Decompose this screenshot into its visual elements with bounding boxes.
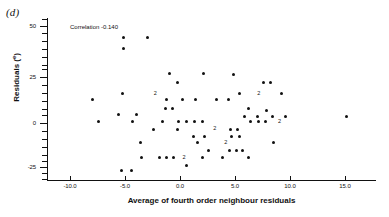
y-axis-label-superscript: e bbox=[11, 56, 17, 59]
figure-panel-d: (d) 50250-25 -10.0-5.00.05.010.015.0 Res… bbox=[0, 0, 389, 217]
scatter-point bbox=[91, 98, 94, 101]
scatter-point bbox=[122, 47, 125, 50]
scatter-point bbox=[215, 98, 218, 101]
x-tick-label: 0.0 bbox=[165, 183, 195, 189]
overlap-count-label: 2 bbox=[257, 90, 260, 96]
scatter-point bbox=[168, 72, 171, 75]
scatter-point bbox=[165, 156, 168, 159]
overlap-count-label: 2 bbox=[213, 125, 216, 131]
scatter-point bbox=[243, 115, 246, 118]
scatter-point bbox=[194, 98, 197, 101]
scatter-point bbox=[139, 141, 142, 144]
scatter-point bbox=[247, 107, 250, 110]
scatter-point bbox=[272, 141, 275, 144]
y-tick-minor bbox=[42, 179, 48, 180]
scatter-point bbox=[241, 149, 244, 152]
panel-label: (d) bbox=[6, 6, 19, 18]
x-axis-label: Average of fourth order neighbour residu… bbox=[47, 196, 376, 205]
scatter-point bbox=[171, 107, 174, 110]
scatter-point bbox=[238, 92, 241, 95]
scatter-point bbox=[284, 115, 287, 118]
scatter-point bbox=[271, 115, 274, 118]
scatter-point bbox=[130, 169, 133, 172]
scatter-point bbox=[235, 149, 238, 152]
scatter-point bbox=[221, 156, 224, 159]
scatter-point bbox=[121, 92, 124, 95]
scatter-point bbox=[97, 120, 100, 123]
overlap-count-label: 2 bbox=[182, 154, 185, 160]
scatter-point bbox=[161, 120, 164, 123]
scatter-point bbox=[262, 81, 265, 84]
scatter-point bbox=[280, 92, 283, 95]
scatter-point bbox=[164, 107, 167, 110]
y-axis-label: Residuals (e) bbox=[11, 37, 22, 117]
scatter-point bbox=[122, 36, 125, 39]
scatter-point bbox=[236, 128, 239, 131]
scatter-point bbox=[247, 156, 250, 159]
scatter-point bbox=[158, 156, 161, 159]
scatter-point bbox=[165, 98, 168, 101]
x-tick-label: 15.0 bbox=[330, 183, 360, 189]
scatter-point bbox=[185, 164, 188, 167]
x-tick-label: -5.0 bbox=[110, 183, 140, 189]
scatter-point bbox=[135, 113, 138, 116]
scatter-point bbox=[146, 36, 149, 39]
scatter-point bbox=[257, 120, 260, 123]
scatter-point bbox=[176, 128, 179, 131]
scatter-point bbox=[269, 81, 272, 84]
scatter-point bbox=[192, 135, 195, 138]
scatter-point bbox=[238, 135, 241, 138]
scatter-point bbox=[265, 109, 268, 112]
scatter-point bbox=[181, 98, 184, 101]
scatter-point bbox=[229, 128, 232, 131]
x-tick-label: -10.0 bbox=[55, 183, 85, 189]
scatter-point bbox=[264, 120, 267, 123]
overlap-count-label: 2 bbox=[224, 139, 227, 145]
scatter-point bbox=[256, 115, 259, 118]
scatter-point bbox=[203, 135, 206, 138]
scatter-point bbox=[249, 120, 252, 123]
y-axis-label-text: Residuals ( bbox=[12, 59, 21, 102]
scatter-point bbox=[172, 156, 175, 159]
scatter-point bbox=[232, 73, 235, 76]
scatter-point bbox=[207, 149, 210, 152]
scatter-point bbox=[193, 120, 196, 123]
scatter-point bbox=[228, 149, 231, 152]
scatter-point bbox=[227, 98, 230, 101]
x-tick-label: 10.0 bbox=[275, 183, 305, 189]
scatter-point bbox=[140, 156, 143, 159]
scatter-point bbox=[345, 115, 348, 118]
correlation-annotation: Correlation -0.140 bbox=[70, 24, 118, 30]
scatter-point bbox=[201, 120, 204, 123]
scatter-point bbox=[201, 156, 204, 159]
scatter-point bbox=[177, 120, 180, 123]
x-tick-label: 5.0 bbox=[220, 183, 250, 189]
scatter-point bbox=[117, 113, 120, 116]
scatter-point bbox=[202, 72, 205, 75]
y-tick-label: 0 bbox=[14, 120, 36, 126]
scatter-point bbox=[131, 120, 134, 123]
scatter-point bbox=[185, 120, 188, 123]
y-tick-label: -25 bbox=[14, 164, 36, 170]
overlap-count-label: 2 bbox=[154, 90, 157, 96]
plot-area: Correlation -0.140 222222 bbox=[47, 18, 375, 178]
y-axis-label-close: ) bbox=[12, 53, 21, 56]
scatter-point bbox=[176, 81, 179, 84]
y-tick-label: 50 bbox=[14, 23, 36, 29]
scatter-point bbox=[152, 128, 155, 131]
overlap-count-label: 2 bbox=[278, 118, 281, 124]
scatter-point bbox=[120, 169, 123, 172]
scatter-point bbox=[196, 141, 199, 144]
scatter-point bbox=[230, 135, 233, 138]
x-axis-line bbox=[47, 180, 376, 181]
